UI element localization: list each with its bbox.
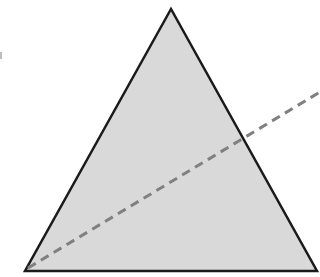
geometry-diagram — [0, 0, 320, 277]
triangle — [25, 9, 317, 271]
